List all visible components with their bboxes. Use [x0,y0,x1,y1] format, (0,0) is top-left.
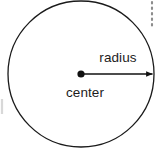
circle-radius-diagram: radius center [0,0,162,152]
center-label: center [66,85,105,100]
radius-label: radius [99,50,137,65]
diagram-canvas: radius center [0,0,162,152]
center-dot [77,70,84,77]
